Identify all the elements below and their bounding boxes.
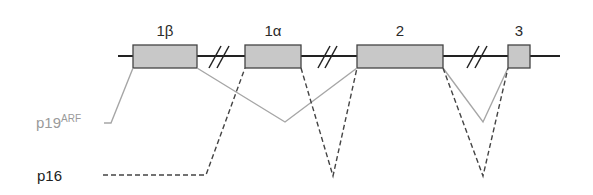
break-mark-3 [467,46,487,68]
p19-label: p19ARF [36,113,81,131]
exon-3-label: 3 [515,22,523,39]
gene-structure-diagram: 1β 1α 2 3 p19ARF p16 [0,0,593,195]
exon-1alpha-label: 1α [264,22,281,39]
exon-2-box [357,45,443,68]
break-mark-1 [209,46,229,68]
exon-1beta-label: 1β [157,22,174,39]
p16-intron-2 [443,68,508,176]
p19-splice-path [104,68,133,123]
exon-1alpha-box [245,45,301,68]
break-mark-2 [318,46,337,68]
p16-label: p16 [37,167,62,184]
p19-intron-1 [197,68,357,122]
p16-intron-1 [301,68,357,176]
exon-2-label: 2 [396,22,404,39]
exon-3-box [508,45,530,68]
exon-1beta-box [133,45,197,68]
